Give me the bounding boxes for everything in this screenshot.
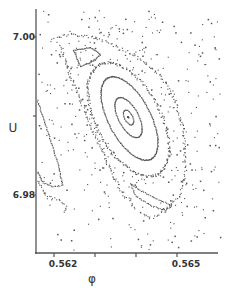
x-ticks: 0.5620.565: [49, 253, 200, 269]
y-tick-label: 7.00: [13, 32, 35, 42]
y-tick-label: 6.98: [13, 190, 35, 200]
y-axis-label: U: [9, 121, 18, 135]
x-tick-label: 0.565: [172, 259, 200, 269]
poincare-section-chart: 0.5620.565 7.006.98 φ U: [0, 0, 225, 288]
scatter-points: [37, 10, 221, 251]
x-axis-label: φ: [88, 272, 96, 286]
y-ticks: 7.006.98: [13, 32, 36, 200]
x-tick-label: 0.562: [49, 259, 77, 269]
